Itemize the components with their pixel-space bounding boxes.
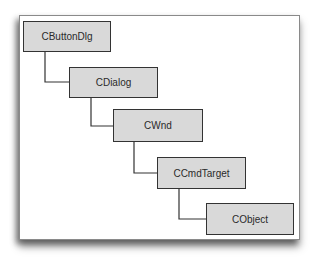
node-cbuttondlg: CButtonDlg <box>23 21 111 52</box>
node-label: CCmdTarget <box>173 168 229 179</box>
node-label: CObject <box>232 214 268 225</box>
node-cdialog: CDialog <box>69 67 158 98</box>
node-label: CButtonDlg <box>41 31 92 42</box>
node-label: CWnd <box>144 120 172 131</box>
node-ccmdtarget: CCmdTarget <box>157 157 246 189</box>
node-cwnd: CWnd <box>113 109 203 142</box>
node-cobject: CObject <box>206 203 294 235</box>
node-label: CDialog <box>96 77 132 88</box>
